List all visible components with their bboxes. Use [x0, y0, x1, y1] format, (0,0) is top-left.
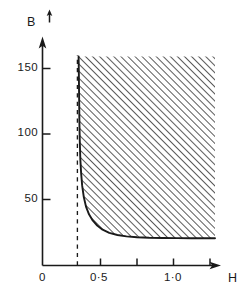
x-axis — [43, 262, 222, 270]
y-axis-title: B — [27, 16, 36, 29]
plot-canvas — [0, 0, 245, 305]
y-tick-label-50: 50 — [5, 193, 38, 205]
y-tick-label-150: 150 — [5, 62, 38, 74]
up-arrow-marker — [47, 10, 53, 23]
x-axis-title: H — [228, 272, 238, 285]
hatched-region — [70, 50, 222, 246]
x-axis-ticks — [101, 259, 211, 266]
figure-panel: B H 150 100 50 0 0·5 1·0 — [0, 0, 245, 305]
x-tick-label-0-5: 0·5 — [90, 272, 108, 284]
x-tick-label-0: 0 — [39, 272, 46, 284]
y-axis-ticks — [43, 69, 51, 200]
y-tick-label-100: 100 — [5, 127, 38, 139]
x-tick-label-1-0: 1·0 — [164, 272, 182, 284]
y-axis — [39, 37, 47, 266]
